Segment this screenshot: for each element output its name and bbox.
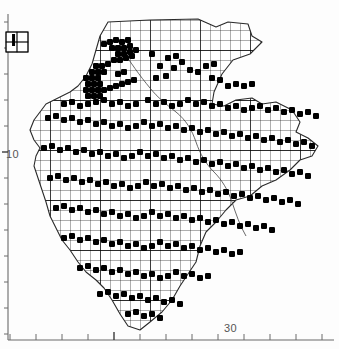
occurrence-dot xyxy=(101,87,107,93)
occurrence-dot xyxy=(113,151,119,157)
occurrence-dot xyxy=(85,93,91,99)
occurrence-dot xyxy=(263,197,269,203)
occurrence-dot xyxy=(109,123,115,129)
occurrence-dot xyxy=(181,127,187,133)
occurrence-dot xyxy=(245,221,251,227)
occurrence-dot xyxy=(93,267,99,273)
occurrence-dot xyxy=(181,213,187,219)
occurrence-dot xyxy=(85,263,91,269)
scale-key-symbol xyxy=(12,34,15,46)
occurrence-dot xyxy=(61,101,67,107)
occurrence-dot xyxy=(225,163,231,169)
occurrence-dot xyxy=(205,127,211,133)
occurrence-dot xyxy=(49,143,55,149)
occurrence-dot xyxy=(125,125,131,131)
occurrence-dot xyxy=(285,137,291,143)
occurrence-dot xyxy=(223,189,229,195)
occurrence-dot xyxy=(77,265,83,271)
occurrence-dot xyxy=(71,175,77,181)
occurrence-dot xyxy=(89,69,95,75)
occurrence-dot xyxy=(133,215,139,221)
occurrence-dot xyxy=(127,185,133,191)
occurrence-dot xyxy=(119,81,125,87)
occurrence-dot xyxy=(197,215,203,221)
occurrence-dot xyxy=(261,137,267,143)
occurrence-dot xyxy=(157,275,163,281)
occurrence-dot xyxy=(101,119,107,125)
occurrence-dot xyxy=(153,295,159,301)
occurrence-dot xyxy=(289,107,295,113)
occurrence-dot xyxy=(87,177,93,183)
occurrence-dot xyxy=(161,99,167,105)
occurrence-dot xyxy=(125,271,131,277)
occurrence-dot xyxy=(161,155,167,161)
occurrence-dot xyxy=(293,141,299,147)
occurrence-dot xyxy=(69,115,75,121)
occurrence-dot xyxy=(177,157,183,163)
occurrence-dot xyxy=(109,101,115,107)
occurrence-dot xyxy=(61,235,67,241)
occurrence-dot xyxy=(89,151,95,157)
occurrence-dot xyxy=(113,293,119,299)
occurrence-dot xyxy=(153,101,159,107)
occurrence-dot xyxy=(125,243,131,249)
occurrence-dot xyxy=(91,81,97,87)
occurrence-dot xyxy=(189,125,195,131)
occurrence-dot xyxy=(171,65,177,71)
occurrence-dot xyxy=(115,51,121,57)
occurrence-dot xyxy=(113,37,119,43)
occurrence-dot xyxy=(271,195,277,201)
occurrence-dot xyxy=(239,191,245,197)
occurrence-dot xyxy=(145,297,151,303)
occurrence-dot xyxy=(151,183,157,189)
occurrence-dot xyxy=(53,205,59,211)
occurrence-dot xyxy=(173,241,179,247)
occurrence-dot xyxy=(209,161,215,167)
occurrence-dot xyxy=(105,153,111,159)
occurrence-dot xyxy=(81,147,87,153)
occurrence-dot xyxy=(133,241,139,247)
occurrence-dot xyxy=(55,173,61,179)
occurrence-dot xyxy=(111,57,117,63)
occurrence-dot xyxy=(233,161,239,167)
occurrence-dot xyxy=(101,211,107,217)
occurrence-dot xyxy=(313,113,319,119)
occurrence-dot xyxy=(121,69,127,75)
occurrence-dot xyxy=(47,175,53,181)
occurrence-dot xyxy=(189,271,195,277)
occurrence-dot xyxy=(121,155,127,161)
occurrence-dot xyxy=(241,165,247,171)
occurrence-dot xyxy=(101,69,107,75)
occurrence-dot xyxy=(111,183,117,189)
occurrence-dot xyxy=(105,289,111,295)
occurrence-dot xyxy=(131,77,137,83)
x-axis-tick-label-30: 30 xyxy=(224,322,237,334)
occurrence-dot xyxy=(165,243,171,249)
occurrence-dot xyxy=(153,151,159,157)
occurrence-dot xyxy=(249,163,255,169)
occurrence-dot xyxy=(247,195,253,201)
occurrence-dot xyxy=(149,51,155,57)
occurrence-dot xyxy=(175,183,181,189)
occurrence-dot xyxy=(145,97,151,103)
occurrence-dot xyxy=(281,109,287,115)
occurrence-dot xyxy=(89,75,95,81)
occurrence-dot xyxy=(137,293,143,299)
occurrence-dot xyxy=(107,39,113,45)
occurrence-dot xyxy=(101,97,107,103)
occurrence-dot xyxy=(173,215,179,221)
occurrence-dot xyxy=(133,309,139,315)
occurrence-dot xyxy=(177,101,183,107)
occurrence-dot xyxy=(185,155,191,161)
occurrence-dot xyxy=(213,217,219,223)
occurrence-dot xyxy=(141,273,147,279)
occurrence-dot xyxy=(273,169,279,175)
occurrence-dot xyxy=(83,87,89,93)
occurrence-dot xyxy=(149,209,155,215)
occurrence-dot xyxy=(85,209,91,215)
occurrence-dot xyxy=(127,43,133,49)
occurrence-dot xyxy=(109,241,115,247)
occurrence-dot xyxy=(157,315,163,321)
occurrence-dot xyxy=(91,93,97,99)
y-axis-tick-label-10: 10 xyxy=(6,148,19,160)
